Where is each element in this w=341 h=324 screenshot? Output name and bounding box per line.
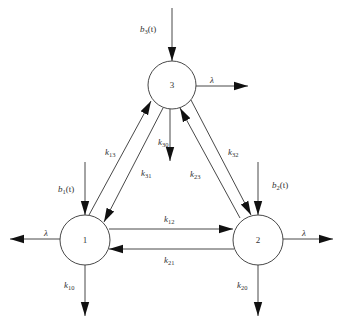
node-2-label: 2: [256, 235, 261, 245]
label-lambda-3: λ: [209, 75, 214, 85]
label-k30: k30: [158, 137, 169, 148]
node-3: 3: [148, 61, 196, 109]
label-b1: b1(t): [58, 184, 74, 195]
label-k13: k13: [105, 147, 116, 158]
arrow-k23: [180, 108, 240, 218]
label-k32: k32: [228, 147, 239, 158]
label-k31: k31: [141, 168, 152, 179]
arrow-k32: [191, 100, 251, 215]
label-lambda-1: λ: [43, 228, 48, 238]
label-k20: k20: [237, 280, 248, 291]
arrow-k31: [104, 108, 163, 222]
label-b2: b2(t): [272, 180, 288, 191]
node-3-label: 3: [170, 80, 175, 90]
label-b3: b3(t): [140, 24, 156, 35]
arrow-k13: [89, 101, 151, 215]
label-k23: k23: [190, 169, 201, 180]
label-k10: k10: [64, 280, 75, 291]
node-1-label: 1: [83, 235, 88, 245]
label-k12: k12: [164, 214, 175, 225]
label-lambda-2: λ: [301, 228, 306, 238]
node-2: 2: [233, 215, 283, 265]
node-1: 1: [60, 215, 110, 265]
label-k21: k21: [164, 255, 175, 266]
compartment-diagram: b3(t) λ k30 k13 k31 k23 k32 b1(t) b2(t) …: [0, 0, 341, 324]
